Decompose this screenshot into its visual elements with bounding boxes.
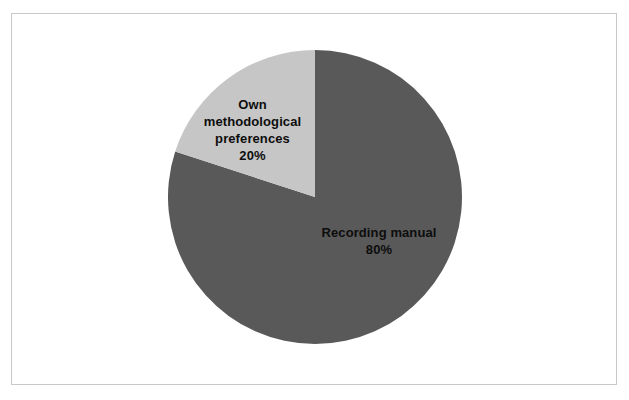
pie-label-value-80: 80% <box>309 241 449 258</box>
pie-label-recording-manual: Recording manual 80% <box>309 224 449 258</box>
pie-chart-svg <box>168 50 462 344</box>
pie-label-line-recording-manual: Recording manual <box>309 224 449 241</box>
pie-label-value-20: 20% <box>181 147 324 164</box>
pie-label-line-preferences: preferences <box>181 130 324 147</box>
pie-label-line-methodological: methodological <box>181 113 324 130</box>
figure-container: Own methodological preferences 20% Recor… <box>0 0 629 400</box>
pie-label-own-methodological-preferences: Own methodological preferences 20% <box>181 96 324 164</box>
pie-chart-plot-area: Own methodological preferences 20% Recor… <box>0 0 629 400</box>
pie-label-line-own: Own <box>181 96 324 113</box>
